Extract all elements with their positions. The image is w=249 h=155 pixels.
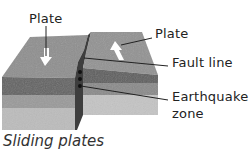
earthquake-zone-label-line1: Earthquake: [172, 90, 248, 103]
left-mid-band: [2, 95, 75, 108]
plate-right-label: Plate: [155, 27, 189, 40]
fault-line-label: Fault line: [172, 56, 233, 69]
diagram-caption: Sliding plates: [3, 134, 104, 149]
plate-left-label: Plate: [29, 12, 63, 25]
right-light-band: [83, 95, 158, 115]
left-dark-band: [2, 77, 75, 95]
earthquake-dot-icon: [78, 70, 82, 74]
right-plate: [83, 32, 158, 115]
right-mid-band: [83, 83, 158, 95]
earthquake-zone-label-line2: zone: [172, 107, 204, 120]
left-light-band: [2, 108, 75, 130]
earthquake-dot-icon: [78, 77, 82, 81]
